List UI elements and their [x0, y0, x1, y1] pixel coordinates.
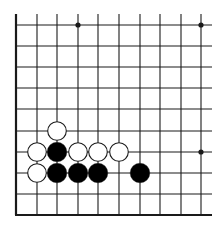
- black-stone: [47, 163, 67, 183]
- white-stone: [28, 164, 47, 183]
- go-board: [0, 0, 224, 231]
- black-stone: [68, 163, 88, 183]
- black-stone: [47, 142, 67, 162]
- white-stone: [28, 143, 47, 162]
- star-point: [75, 22, 80, 27]
- white-stone: [110, 143, 129, 162]
- white-stone: [89, 143, 108, 162]
- black-stone: [88, 163, 108, 183]
- white-stone: [48, 122, 67, 141]
- grid-lines: [15, 14, 212, 215]
- black-stone: [130, 163, 150, 183]
- star-point: [198, 22, 203, 27]
- star-point: [198, 149, 203, 154]
- white-stone: [69, 143, 88, 162]
